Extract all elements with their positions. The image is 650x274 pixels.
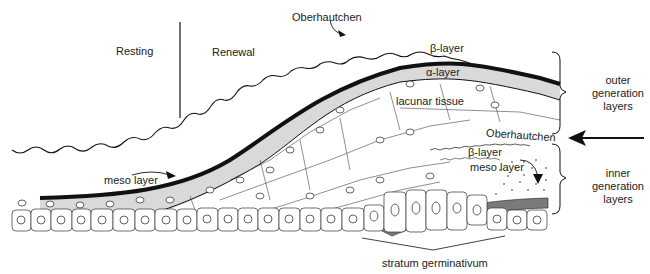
oberhautchen-outer-label: Oberhautchen (292, 12, 362, 23)
inner-generation-layers-label: inner generation layers (586, 167, 650, 206)
stratum-germinativum-label: stratum germinativum (382, 258, 488, 269)
inner-bracket (552, 144, 566, 214)
beta-layer-inner-label: β-layer (468, 147, 502, 158)
meso-layer-outer-label: meso layer (104, 175, 158, 186)
meso-layer-inner-label: meso layer (470, 162, 524, 173)
beta-layer-outer-label: β-layer (430, 43, 464, 54)
alpha-layer-label: α-layer (426, 67, 460, 78)
lacunar-tissue-label: lacunar tissue (396, 96, 464, 107)
stratum-bracket (362, 236, 505, 250)
epidermis-diagram: Resting Renewal Oberhautchen β-layer α-l… (0, 0, 650, 274)
outer-generation-layers-label: outer generation layers (586, 74, 650, 113)
region-renewal-label: Renewal (212, 47, 255, 58)
region-resting-label: Resting (116, 46, 153, 57)
